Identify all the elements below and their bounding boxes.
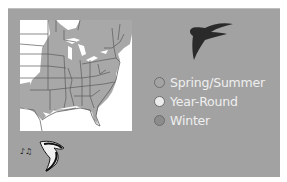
legend: Spring/Summer Year-Round Winter bbox=[154, 73, 265, 130]
year-round-swatch-icon bbox=[154, 96, 165, 107]
legend-label: Year-Round bbox=[170, 94, 238, 109]
us-states-map bbox=[20, 20, 132, 131]
legend-item-spring-summer: Spring/Summer bbox=[154, 73, 265, 92]
legend-label: Winter bbox=[170, 113, 210, 128]
swift-silhouette-icon bbox=[187, 20, 235, 62]
spring-summer-swatch-icon bbox=[154, 77, 165, 88]
bird-song-icon: ♪♫ bbox=[18, 138, 70, 172]
legend-label: Spring/Summer bbox=[170, 75, 265, 90]
winter-swatch-icon bbox=[154, 115, 165, 126]
range-map bbox=[20, 20, 132, 131]
legend-item-winter: Winter bbox=[154, 111, 265, 130]
legend-item-year-round: Year-Round bbox=[154, 92, 265, 111]
svg-text:♪♫: ♪♫ bbox=[20, 147, 32, 156]
